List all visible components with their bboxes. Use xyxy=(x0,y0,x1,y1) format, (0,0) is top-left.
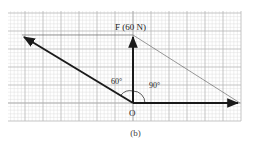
angle-right-label: 90° xyxy=(149,81,160,90)
force-label: F (60 N) xyxy=(115,22,146,32)
angle-arc-left xyxy=(121,91,133,95)
force-vector-diagonal xyxy=(24,37,133,103)
angle-arc-right xyxy=(133,91,145,103)
origin-label: O xyxy=(129,108,136,118)
force-diagram: F (60 N) 60° 90° O xyxy=(0,0,271,145)
figure-caption: (b) xyxy=(0,128,271,138)
angle-left-label: 60° xyxy=(111,77,122,86)
